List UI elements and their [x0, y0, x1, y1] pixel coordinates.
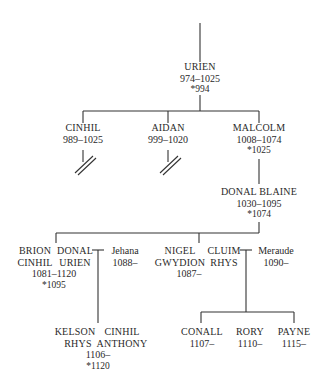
- person-name-line1: CLUIM: [207, 245, 240, 257]
- person-meraude: Meraude 1090–: [258, 245, 294, 268]
- person-brion-dates: 1081–1120 *1095: [32, 268, 77, 291]
- person-name-line2: URIEN: [57, 257, 93, 269]
- person-rory: RORY 1110–: [236, 326, 264, 349]
- person-name-line2: GWYDION: [155, 257, 205, 269]
- person-name: Meraude: [258, 245, 294, 257]
- person-name-line2: RHYS: [207, 257, 240, 269]
- person-years: 1081–1120: [32, 268, 77, 280]
- crowned-year: *1095: [32, 280, 77, 292]
- person-name: RORY: [236, 326, 264, 338]
- person-name: CINHIL: [63, 122, 103, 134]
- person-name: MALCOLM: [233, 122, 286, 134]
- person-years: 1008–1074: [233, 134, 286, 146]
- person-name-line1: BRION: [17, 245, 52, 257]
- person-nigel: NIGEL GWYDION 1087–: [155, 245, 205, 280]
- person-years: 974–1025: [180, 73, 220, 85]
- person-years: 1110–: [236, 338, 264, 350]
- crowned-year: *1025: [233, 145, 286, 157]
- person-name: Jehana: [111, 245, 138, 257]
- person-name-line1: NIGEL: [155, 245, 205, 257]
- person-years: 1115–: [278, 338, 311, 350]
- person-name-line1: DONAL: [57, 245, 93, 257]
- person-years: 1106–: [86, 349, 111, 361]
- person-years: 1087–: [155, 268, 205, 280]
- person-years: 1107–: [181, 338, 223, 350]
- person-donal-blaine: DONAL BLAINE 1030–1095 *1074: [221, 186, 297, 221]
- kelson-cinhil-dates: 1106– *1120: [86, 349, 111, 372]
- person-name: CONALL: [181, 326, 223, 338]
- person-years: 1030–1095: [221, 198, 297, 210]
- person-name-line2: CINHIL: [17, 257, 52, 269]
- person-brion: BRION CINHIL: [17, 245, 52, 268]
- person-jehana: Jehana 1088–: [111, 245, 138, 268]
- person-malcolm: MALCOLM 1008–1074 *1025: [233, 122, 286, 157]
- person-years: 989–1025: [63, 134, 103, 146]
- person-donal-urien: DONAL URIEN: [57, 245, 93, 268]
- person-name-line1: CINHIL: [97, 326, 148, 338]
- person-years: 1088–: [111, 257, 138, 269]
- person-name: DONAL BLAINE: [221, 186, 297, 198]
- person-aidan: AIDAN 999–1020: [148, 122, 188, 145]
- person-name: PAYNE: [278, 326, 311, 338]
- person-name: URIEN: [180, 61, 220, 73]
- person-years: 999–1020: [148, 134, 188, 146]
- person-conall: CONALL 1107–: [181, 326, 223, 349]
- person-name-line1: KELSON: [55, 326, 96, 338]
- person-cinhil: CINHIL 989–1025: [63, 122, 103, 145]
- crowned-year: *1074: [221, 209, 297, 221]
- person-cinhil-anthony: CINHIL ANTHONY: [97, 326, 148, 349]
- person-kelson: KELSON RHYS: [55, 326, 96, 349]
- person-payne: PAYNE 1115–: [278, 326, 311, 349]
- crowned-year: *1120: [86, 361, 111, 373]
- person-name-line2: RHYS: [55, 338, 96, 350]
- person-name: AIDAN: [148, 122, 188, 134]
- crowned-year: *994: [180, 84, 220, 96]
- person-name-line2: ANTHONY: [97, 338, 148, 350]
- person-urien: URIEN 974–1025 *994: [180, 61, 220, 96]
- person-years: 1090–: [258, 257, 294, 269]
- person-cluim: CLUIM RHYS: [207, 245, 240, 268]
